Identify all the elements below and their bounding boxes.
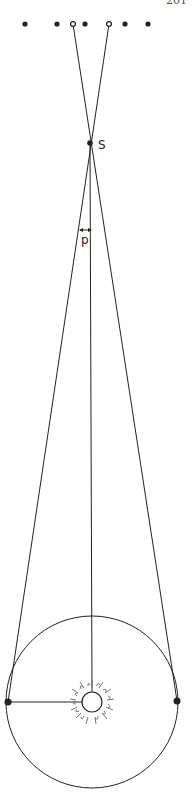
parallax-label: p	[81, 233, 89, 247]
sightline-right	[73, 24, 177, 701]
star-icon	[145, 21, 150, 26]
sightline-left	[8, 24, 109, 702]
star-ring-icon	[107, 22, 112, 27]
star-icon	[122, 21, 127, 26]
star-s-icon	[87, 140, 93, 146]
background-stars	[22, 21, 150, 26]
star-icon	[54, 21, 59, 26]
sun-to-star-line	[90, 143, 92, 692]
earth-right-icon	[174, 698, 181, 705]
earth-left-icon	[5, 699, 12, 706]
parallax-diagram: S p	[0, 0, 193, 810]
star-s-label: S	[98, 138, 106, 152]
star-icon	[22, 21, 27, 26]
star-icon	[82, 21, 87, 26]
star-ring-icon	[71, 22, 76, 27]
